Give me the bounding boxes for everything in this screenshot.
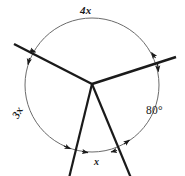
arc-arrow-group <box>28 50 159 153</box>
circle-diagram-svg <box>0 0 185 176</box>
arrow-x-right-end <box>111 151 117 153</box>
arc-label-80-degrees: 80° <box>146 105 163 117</box>
arc-label-4x: 4x <box>80 5 91 16</box>
arrow-3x-top-end <box>28 58 30 65</box>
arrow-3x-bottom-end <box>64 146 71 149</box>
geometry-figure: 4x 80° 3x x <box>0 0 185 176</box>
ray-lower-left <box>69 84 92 176</box>
arc-label-x: x <box>94 157 99 167</box>
ray-right <box>92 57 176 84</box>
arrow-80-bottom-end <box>124 140 130 144</box>
